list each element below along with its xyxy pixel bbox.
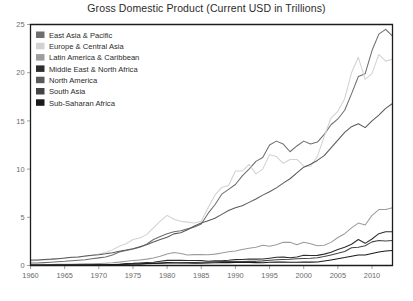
x-axis-label: 1960 xyxy=(22,271,38,280)
x-axis-ticks: 1960196519701975198019851990199520002005… xyxy=(22,266,380,281)
y-axis-label: 25 xyxy=(16,20,24,29)
legend-label: South Asia xyxy=(49,87,86,96)
legend-label: Sub-Saharan Africa xyxy=(49,99,116,108)
x-axis-label: 1990 xyxy=(227,271,243,280)
x-axis-label: 1985 xyxy=(193,271,209,280)
legend-label: North America xyxy=(49,76,98,85)
legend-swatch xyxy=(36,99,45,106)
series-line xyxy=(31,54,393,261)
y-axis-label: 10 xyxy=(16,165,24,174)
legend-swatch xyxy=(36,77,45,84)
legend-label: Middle East & North Africa xyxy=(49,65,138,74)
x-axis-label: 2005 xyxy=(330,271,346,280)
legend-label: Europe & Central Asia xyxy=(49,42,124,51)
x-axis-label: 1980 xyxy=(159,271,175,280)
y-axis-label: 0 xyxy=(20,261,24,270)
gdp-line-chart: 0510152025 19601965197019751980198519901… xyxy=(0,0,413,301)
y-axis-label: 20 xyxy=(16,68,24,77)
chart-page: Gross Domestic Product (Current USD in T… xyxy=(0,0,413,301)
legend-swatch xyxy=(36,65,45,72)
y-axis-label: 5 xyxy=(20,213,24,222)
x-axis-label: 1975 xyxy=(125,271,141,280)
legend-label: East Asia & Pacific xyxy=(49,31,113,40)
y-axis-ticks: 0510152025 xyxy=(16,20,30,270)
x-axis-label: 1995 xyxy=(261,271,277,280)
chart-legend: East Asia & PacificEurope & Central Asia… xyxy=(36,31,139,108)
y-axis-label: 15 xyxy=(16,117,24,126)
legend-swatch xyxy=(36,88,45,95)
legend-swatch xyxy=(36,54,45,61)
legend-swatch xyxy=(36,32,45,39)
x-axis-label: 2010 xyxy=(364,271,380,280)
series-line xyxy=(31,104,393,261)
x-axis-label: 2000 xyxy=(295,271,311,280)
x-axis-label: 1965 xyxy=(56,271,72,280)
legend-swatch xyxy=(36,43,45,50)
x-axis-label: 1970 xyxy=(91,271,107,280)
legend-label: Latin America & Caribbean xyxy=(49,53,139,62)
